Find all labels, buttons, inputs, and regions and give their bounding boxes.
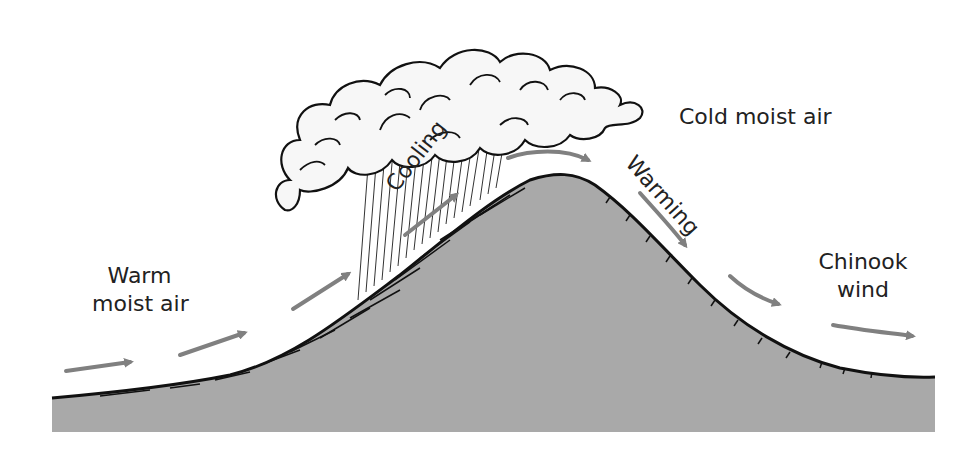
- arrow-3: [293, 274, 348, 309]
- label-cold-moist-air: Cold moist air: [679, 103, 832, 131]
- label-warm-line2: moist air: [92, 290, 187, 318]
- label-chinook-wind: Chinook wind: [818, 248, 908, 304]
- arrow-cooling: [405, 195, 456, 235]
- arrow-2: [180, 333, 244, 355]
- arrow-summit: [508, 152, 588, 161]
- arrow-lee: [730, 276, 778, 304]
- label-warm-moist-air: Warm moist air: [92, 262, 187, 318]
- label-warm-line1: Warm: [92, 262, 187, 290]
- arrow-1: [66, 362, 130, 371]
- label-chinook-line1: Chinook: [818, 248, 908, 276]
- chinook-diagram: Warm moist air Cooling Cold moist air Wa…: [0, 0, 977, 465]
- diagram-canvas: [0, 0, 977, 465]
- label-chinook-line2: wind: [818, 276, 908, 304]
- arrow-chinook: [833, 325, 912, 336]
